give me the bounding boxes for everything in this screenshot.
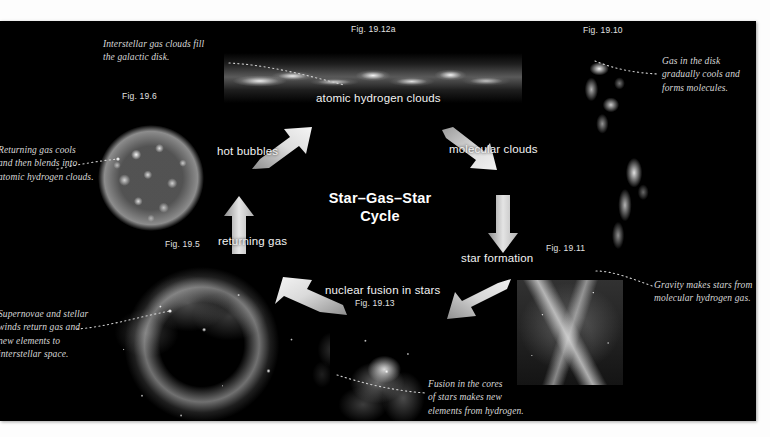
figure-label-19-13: Fig. 19.13 — [355, 298, 395, 308]
arrow-nuclear-fusion-to-returning-gas — [273, 275, 349, 321]
cycle-label-nuclear-fusion-in-stars: nuclear fusion in stars — [325, 284, 440, 297]
figure-label-19-6: Fig. 19.6 — [122, 91, 157, 101]
page-title: Star–Gas–Star Cycle — [295, 189, 465, 225]
cycle-label-hot-bubbles: hot bubbles — [217, 145, 278, 158]
cycle-label-atomic-hydrogen-clouds: atomic hydrogen clouds — [316, 92, 441, 105]
leader-fusion-cores — [336, 373, 428, 395]
annotation-supernovae: Supernovae and stellar winds return gas … — [0, 308, 96, 362]
figure-label-19-5: Fig. 19.5 — [165, 239, 200, 249]
figure-label-19-11: Fig. 19.11 — [546, 243, 585, 253]
leader-interstellar-gas — [228, 61, 346, 91]
cycle-label-molecular-clouds: molecular clouds — [449, 143, 538, 156]
figure-image-molecular-cloud-lower — [590, 149, 666, 257]
figure-label-19-12a: Fig. 19.12a — [351, 24, 396, 34]
annotation-gas-cools: Gas in the disk gradually cools and form… — [662, 55, 756, 95]
leader-gas-cools — [594, 59, 660, 79]
arrow-star-formation-to-nuclear-fusion — [441, 275, 513, 323]
annotation-fusion-cores: Fusion in the cores of stars makes new e… — [428, 378, 550, 418]
annotation-returning-gas-cools: Returning gas cools and then blends into… — [0, 144, 110, 184]
arrow-molecular-clouds-to-star-formation — [486, 193, 520, 255]
diagram-page: Star–Gas–Star Cycle atomic hydrogen clou… — [0, 0, 770, 437]
annotation-gravity-makes-stars: Gravity makes stars from molecular hydro… — [654, 279, 756, 306]
cycle-label-returning-gas: returning gas — [218, 235, 287, 248]
cycle-label-star-formation: star formation — [461, 252, 533, 265]
star-gas-star-cycle-panel: Star–Gas–Star Cycle atomic hydrogen clou… — [0, 21, 756, 421]
figure-label-19-10: Fig. 19.10 — [583, 25, 623, 35]
leader-gravity-makes-stars — [595, 269, 657, 291]
annotation-interstellar-gas: Interstellar gas clouds fill the galacti… — [103, 38, 235, 65]
figure-image-hot-bubble-remnant — [98, 125, 204, 231]
figure-image-star-forming-pillars — [517, 280, 623, 385]
